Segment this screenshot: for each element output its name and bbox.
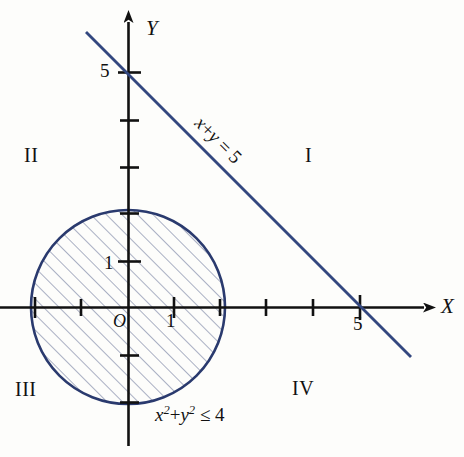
figure-canvas: X Y O 1 5 1 5 I II III IV x2+y2 ≤ 4 x+y … (0, 0, 464, 457)
y-tick-label-5: 5 (100, 61, 110, 80)
quadrant-label-iii: III (15, 379, 36, 399)
circle-eq-y-exponent: 2 (189, 403, 195, 417)
x-tick-label-5: 5 (353, 314, 363, 333)
circle-eq-plus: + (170, 404, 181, 425)
x-axis-label: X (441, 296, 454, 317)
circle-eq-relation: ≤ (200, 404, 210, 425)
circle-equation-label: x2+y2 ≤ 4 (155, 404, 225, 424)
y-axis-label: Y (146, 18, 158, 39)
quadrant-label-ii: II (24, 145, 38, 165)
quadrant-label-i: I (305, 145, 312, 165)
coordinate-plane-svg (0, 0, 464, 457)
circle-eq-rhs: 4 (215, 404, 225, 425)
y-tick-label-1: 1 (104, 253, 114, 272)
origin-label: O (113, 312, 126, 330)
quadrant-label-iv: IV (292, 378, 314, 398)
circle-eq-y: y (180, 404, 188, 425)
x-tick-label-1: 1 (166, 311, 176, 330)
